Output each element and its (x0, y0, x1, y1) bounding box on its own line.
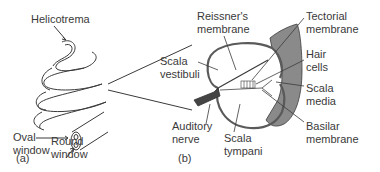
label-auditory-nerve: Auditory nerve (172, 120, 212, 146)
label-helicotrema: Helicotrema (31, 13, 90, 26)
label-scala-vestibuli: Scala vestibuli (160, 55, 200, 81)
label-round-window: Round window (51, 135, 88, 161)
label-scala-tympani: Scala tympani (224, 132, 263, 158)
label-scala-media: Scala media (306, 82, 336, 108)
label-basilar-membrane: Basilar membrane (306, 120, 359, 146)
label-reissners-membrane: Reissner's membrane (197, 10, 250, 36)
panel-a-tag: (a) (16, 152, 29, 165)
cochlea-diagram: Helicotrema Oval window Round window (a)… (0, 0, 380, 172)
label-tectorial-membrane: Tectorial membrane (306, 10, 359, 36)
panel-b-tag: (b) (178, 152, 191, 165)
label-hair-cells: Hair cells (306, 48, 328, 74)
